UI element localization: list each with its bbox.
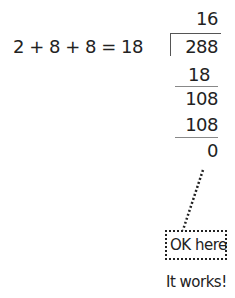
step-line-1 [175, 86, 218, 87]
step-line-2 [175, 137, 218, 138]
step-subtract-1: 18 [188, 66, 210, 84]
quotient: 16 [196, 10, 218, 28]
dotted-leader-line [175, 168, 215, 233]
ok-here-label: OK here [170, 238, 227, 253]
caption: It works! [166, 275, 227, 290]
dividend: 288 [185, 38, 218, 56]
step-subtract-2: 108 [185, 116, 218, 134]
digit-sum-equation: 2 + 8 + 8 = 18 [13, 38, 143, 56]
final-remainder: 0 [207, 142, 218, 160]
step-remainder-1: 108 [185, 90, 218, 108]
